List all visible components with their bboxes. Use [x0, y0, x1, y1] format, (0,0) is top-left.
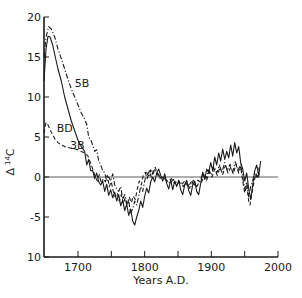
- series-labels: 5B3BBD: [57, 77, 90, 152]
- y-tick-label: 0: [34, 171, 41, 184]
- series-layer: [44, 27, 261, 225]
- y-axis-label: Δ14C: [4, 148, 17, 175]
- series-label-3b: 3B: [70, 139, 85, 152]
- delta-14c-chart: 20151050-5101700180019002000 5B3BBD Year…: [0, 0, 302, 298]
- x-tick-label: 1900: [197, 261, 225, 274]
- y-tick-label: 20: [27, 11, 41, 24]
- y-tick-label: -5: [30, 211, 41, 224]
- x-axis-label: Years A.D.: [132, 274, 188, 287]
- y-tick-label: 10: [27, 251, 41, 264]
- series-label-bd: BD: [57, 122, 73, 135]
- x-tick-label: 2000: [264, 261, 292, 274]
- y-axis-label-element: C: [4, 148, 17, 156]
- y-axis-label-delta: Δ: [4, 168, 17, 176]
- x-tick-label: 1700: [64, 261, 92, 274]
- y-tick-label: 10: [27, 91, 41, 104]
- series-line-3b: [44, 36, 261, 225]
- svg-text:Δ14C: Δ14C: [4, 148, 17, 175]
- series-label-5b: 5B: [75, 77, 90, 90]
- x-tick-label: 1800: [131, 261, 159, 274]
- y-tick-label: 15: [27, 51, 41, 64]
- axes: 20151050-5101700180019002000: [27, 11, 292, 274]
- y-tick-label: 5: [34, 131, 41, 144]
- series-line-5b: [44, 27, 259, 213]
